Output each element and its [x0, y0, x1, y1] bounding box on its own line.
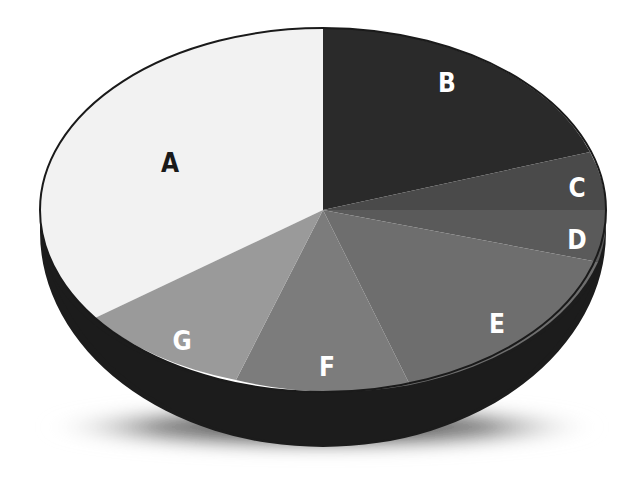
- pie-chart-3d: A B C D E F G: [0, 0, 642, 477]
- label-d: D: [567, 225, 586, 255]
- label-f: F: [319, 352, 335, 382]
- label-b: B: [438, 68, 456, 98]
- label-c: C: [568, 173, 585, 203]
- pie-top: [40, 28, 607, 392]
- label-a: A: [161, 148, 179, 178]
- label-e: E: [489, 309, 505, 339]
- label-g: G: [172, 326, 191, 356]
- pie-chart-canvas: A B C D E F G: [0, 0, 642, 477]
